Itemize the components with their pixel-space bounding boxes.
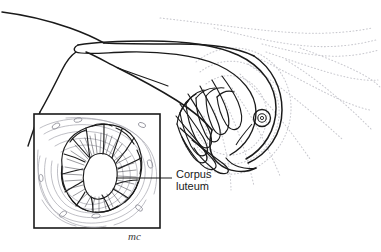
- corpus-luteum-label-line2: luteum: [176, 180, 209, 192]
- corpus-luteum-label-line1: Corpus: [176, 168, 212, 180]
- anatomy-illustration: Corpus luteum mc: [0, 0, 381, 252]
- artist-signature: mc: [128, 230, 141, 242]
